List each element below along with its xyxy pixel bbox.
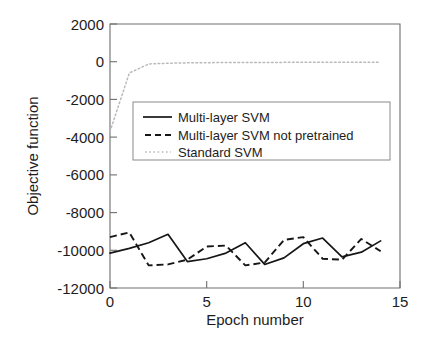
y-axis-ticks bbox=[110, 24, 117, 288]
legend-label-multi-layer-svm-not-pretrained: Multi-layer SVM not pretrained bbox=[178, 128, 354, 143]
y-tick-label-m2000: -2000 bbox=[66, 91, 104, 108]
y-tick-label-0: 0 bbox=[96, 53, 104, 70]
y-tick-label-m4000: -4000 bbox=[66, 129, 104, 146]
series-multi-layer-svm-not-pretrained bbox=[110, 232, 381, 265]
x-tick-label-5: 5 bbox=[203, 293, 211, 310]
legend-label-multi-layer-svm: Multi-layer SVM bbox=[178, 110, 270, 125]
x-axis-ticks bbox=[110, 281, 400, 288]
legend-label-standard-svm: Standard SVM bbox=[178, 145, 263, 160]
x-tick-label-0: 0 bbox=[106, 293, 114, 310]
chart-legend: Multi-layer SVM Multi-layer SVM not pret… bbox=[133, 102, 390, 160]
x-tick-label-15: 15 bbox=[392, 293, 409, 310]
y-tick-label-m12000: -12000 bbox=[57, 280, 104, 297]
y-axis-title: Objective function bbox=[24, 96, 41, 215]
y-tick-label-2000: 2000 bbox=[71, 16, 104, 33]
x-axis-tick-labels: 0 5 10 15 bbox=[106, 293, 409, 310]
y-tick-label-m6000: -6000 bbox=[66, 166, 104, 183]
chart-figure: 2000 0 -2000 -4000 -6000 -8000 -10000 -1… bbox=[0, 0, 425, 340]
y-tick-label-m10000: -10000 bbox=[57, 242, 104, 259]
objective-function-line-chart: 2000 0 -2000 -4000 -6000 -8000 -10000 -1… bbox=[0, 0, 425, 340]
y-axis-tick-labels: 2000 0 -2000 -4000 -6000 -8000 -10000 -1… bbox=[57, 16, 104, 297]
data-series-group bbox=[110, 62, 381, 265]
series-multi-layer-svm bbox=[110, 234, 381, 264]
x-axis-title: Epoch number bbox=[206, 311, 304, 328]
x-tick-label-10: 10 bbox=[295, 293, 312, 310]
y-tick-label-m8000: -8000 bbox=[66, 204, 104, 221]
